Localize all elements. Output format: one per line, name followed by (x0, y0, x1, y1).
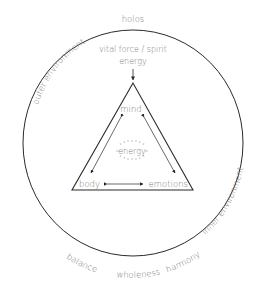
holos-label: holos (122, 14, 145, 24)
holos-diagram: holos vital force / spirit energy mind b… (0, 0, 253, 282)
vital-force-label: vital force / spirit (99, 45, 167, 54)
energy-source-label: energy (119, 57, 147, 66)
center-energy-label: energy (118, 147, 146, 156)
emotions-label: emotions (149, 179, 188, 189)
body-label: body (79, 179, 100, 189)
outer-environment-label: outer environment (30, 36, 86, 105)
inner-environment-label: inner environment (200, 166, 246, 236)
balance-label: balance (65, 251, 99, 274)
mind-emotions-arrow (144, 117, 175, 173)
wholeness-label: wholeness (116, 266, 161, 279)
mind-body-arrow (91, 117, 121, 173)
mind-label: mind (120, 104, 141, 114)
harmony-label: harmony (164, 249, 201, 274)
triangle (72, 83, 193, 190)
